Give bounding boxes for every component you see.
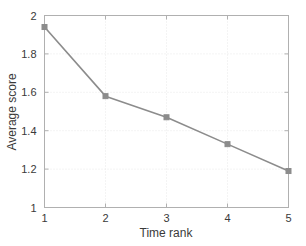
gridlines <box>45 16 289 208</box>
data-point-marker <box>103 94 108 99</box>
x-tick-label: 5 <box>285 213 291 224</box>
chart-figure: 11.21.41.61.82 12345 Average score Time … <box>0 0 306 246</box>
x-tick-label: 2 <box>102 213 108 224</box>
y-axis-title: Average score <box>6 73 18 150</box>
y-tick-label: 2 <box>0 10 37 21</box>
x-tick-label: 1 <box>41 213 47 224</box>
y-tick-label: 1.2 <box>0 164 37 175</box>
x-axis-title: Time rank <box>140 227 193 239</box>
data-point-marker <box>286 169 291 174</box>
data-point-marker <box>42 25 47 30</box>
x-tick-label: 4 <box>224 213 230 224</box>
data-point-marker <box>225 142 230 147</box>
line-chart-canvas <box>0 0 306 246</box>
y-tick-label: 1 <box>0 202 37 213</box>
y-tick-label: 1.8 <box>0 48 37 59</box>
data-point-marker <box>164 115 169 120</box>
x-tick-label: 3 <box>163 213 169 224</box>
